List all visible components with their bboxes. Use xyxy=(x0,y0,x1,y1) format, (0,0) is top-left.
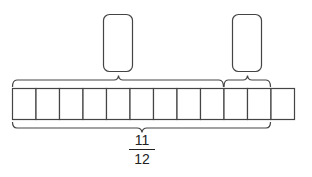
fraction-line xyxy=(129,149,155,150)
fraction-label: 11 12 xyxy=(128,133,156,166)
bar-cell xyxy=(271,89,295,120)
fraction-numerator: 11 xyxy=(128,133,156,147)
bar-cell xyxy=(36,89,60,120)
fraction-bar xyxy=(13,89,295,120)
fraction-denominator: 12 xyxy=(128,152,156,166)
bar-cell xyxy=(224,89,248,120)
fraction-bar-diagram xyxy=(0,0,312,177)
top-brace-two-parts xyxy=(224,76,271,88)
bar-cell xyxy=(177,89,201,120)
bar-cell xyxy=(201,89,225,120)
bar-cell xyxy=(248,89,272,120)
answer-box-1[interactable] xyxy=(104,15,133,72)
bar-cell xyxy=(83,89,107,120)
bar-cell xyxy=(154,89,178,120)
bar-cell xyxy=(107,89,131,120)
bar-cell xyxy=(60,89,84,120)
bar-cell xyxy=(130,89,154,120)
top-brace-nine-parts xyxy=(13,76,224,88)
bottom-brace-eleven-parts xyxy=(13,122,271,133)
answer-box-2[interactable] xyxy=(233,15,262,72)
bar-cell xyxy=(13,89,37,120)
